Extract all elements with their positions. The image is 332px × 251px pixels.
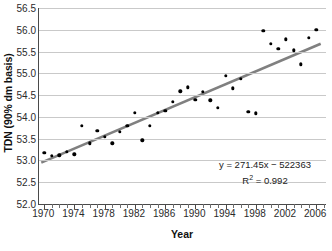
x-axis-tick-label: 2002 xyxy=(274,208,296,219)
x-axis-tick-labels: 1970197419781982198619901994199820022006 xyxy=(38,208,326,224)
x-axis-minor-tick xyxy=(67,204,68,208)
x-axis-minor-tick xyxy=(112,204,113,208)
y-axis-tick-label: 52.5 xyxy=(12,177,36,188)
gridline xyxy=(39,73,326,74)
x-axis-minor-tick xyxy=(263,204,264,208)
x-axis-tick-label: 1970 xyxy=(32,208,54,219)
scatter-chart: TDN (90% dm basis) 52.052.553.053.554.05… xyxy=(0,0,332,251)
gridline xyxy=(39,52,326,53)
gridline xyxy=(39,95,326,96)
x-axis-minor-tick xyxy=(82,204,83,208)
x-axis-tick-label: 2006 xyxy=(304,208,326,219)
x-axis-minor-tick xyxy=(120,204,121,208)
x-axis-minor-tick xyxy=(309,204,310,208)
x-axis-minor-tick xyxy=(324,204,325,208)
x-axis-tick-label: 1998 xyxy=(244,208,266,219)
x-axis-minor-tick xyxy=(127,204,128,208)
r-squared: R2 = 0.992 xyxy=(206,171,324,187)
x-axis-minor-tick xyxy=(150,204,151,208)
y-axis-tick-label: 53.5 xyxy=(12,133,36,144)
x-axis-minor-tick xyxy=(241,204,242,208)
x-axis-minor-tick xyxy=(271,204,272,208)
x-axis-minor-tick xyxy=(142,204,143,208)
y-axis-tick-label: 53.0 xyxy=(12,155,36,166)
y-axis-tick-label: 54.0 xyxy=(12,111,36,122)
x-axis-tick-label: 1974 xyxy=(62,208,84,219)
gridline xyxy=(39,30,326,31)
x-axis-minor-tick xyxy=(158,204,159,208)
x-axis-minor-tick xyxy=(218,204,219,208)
x-axis-minor-tick xyxy=(173,204,174,208)
x-axis-minor-tick xyxy=(294,204,295,208)
x-axis-title: Year xyxy=(38,228,326,240)
y-axis-tick-label: 56.5 xyxy=(12,3,36,14)
y-axis-tick-labels: 52.052.553.053.554.054.555.055.556.056.5 xyxy=(12,0,36,205)
x-axis-minor-tick xyxy=(90,204,91,208)
x-axis-tick-label: 1986 xyxy=(153,208,175,219)
regression-equation: y = 271.45x − 522363 xyxy=(206,158,324,171)
gridline xyxy=(39,117,326,118)
gridline xyxy=(39,139,326,140)
y-axis-tick-label: 55.5 xyxy=(12,46,36,57)
y-axis-tick-label: 54.5 xyxy=(12,90,36,101)
x-axis-minor-tick xyxy=(248,204,249,208)
x-axis-minor-tick xyxy=(278,204,279,208)
x-axis-tick-label: 1990 xyxy=(183,208,205,219)
x-axis-minor-tick xyxy=(180,204,181,208)
y-axis-tick-label: 56.0 xyxy=(12,24,36,35)
x-axis-minor-tick xyxy=(210,204,211,208)
x-axis-minor-tick xyxy=(233,204,234,208)
x-axis-minor-tick xyxy=(52,204,53,208)
regression-annotation: y = 271.45x − 522363 R2 = 0.992 xyxy=(206,158,324,187)
x-axis-minor-tick xyxy=(59,204,60,208)
r-squared-value: = 0.992 xyxy=(253,175,288,186)
x-axis-tick-label: 1978 xyxy=(93,208,115,219)
gridline xyxy=(39,8,326,9)
x-axis-tick-label: 1982 xyxy=(123,208,145,219)
x-axis-tick-label: 1994 xyxy=(213,208,235,219)
x-axis-minor-tick xyxy=(188,204,189,208)
x-axis-minor-tick xyxy=(301,204,302,208)
x-axis-minor-tick xyxy=(97,204,98,208)
x-axis-minor-tick xyxy=(203,204,204,208)
y-axis-tick-label: 55.0 xyxy=(12,68,36,79)
